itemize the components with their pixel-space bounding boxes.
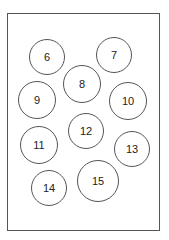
circle-14: 14 (31, 170, 67, 206)
circle-label: 6 (44, 51, 50, 63)
circle-label: 14 (43, 182, 55, 194)
circle-label: 8 (79, 78, 85, 90)
circle-label: 10 (122, 95, 134, 107)
circle-8: 8 (63, 65, 101, 103)
circle-12: 12 (68, 113, 104, 149)
circle-13: 13 (114, 131, 150, 167)
circle-label: 15 (92, 175, 104, 187)
circle-7: 7 (96, 37, 132, 73)
circle-label: 12 (80, 125, 92, 137)
circle-9: 9 (18, 81, 56, 119)
circle-label: 11 (33, 139, 44, 151)
circle-15: 15 (77, 160, 119, 202)
circle-10: 10 (109, 82, 147, 120)
circle-label: 7 (111, 49, 117, 61)
circle-label: 13 (126, 143, 138, 155)
circle-6: 6 (29, 39, 65, 75)
circle-11: 11 (20, 126, 58, 164)
circle-label: 9 (34, 94, 40, 106)
